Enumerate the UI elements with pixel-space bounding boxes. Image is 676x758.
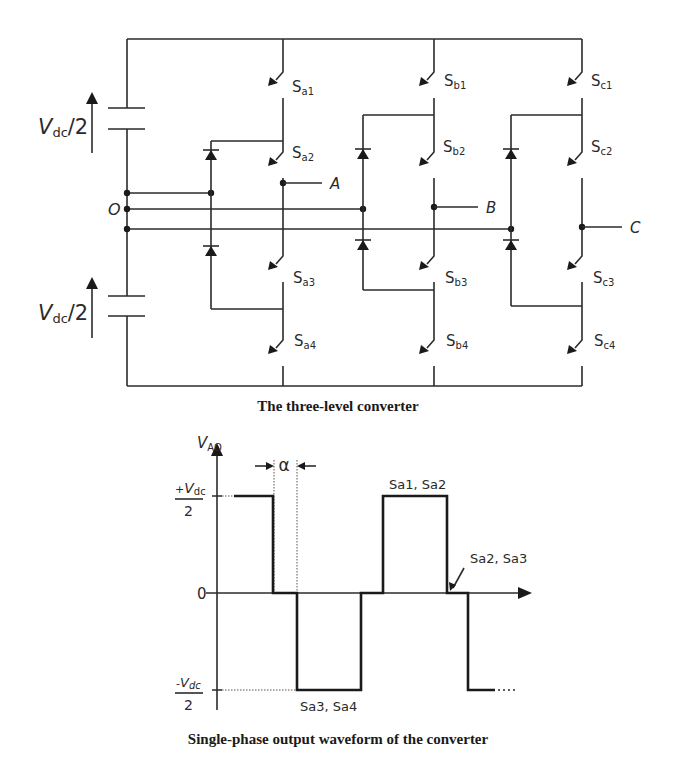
diode-c-upper <box>503 149 519 159</box>
output-b-label: B <box>486 199 496 217</box>
diode-a-upper <box>203 150 219 160</box>
neutral-point-label: O <box>108 200 121 219</box>
switch-label-sb3: Sb3 <box>445 269 467 288</box>
diode-a-lower <box>203 246 219 256</box>
switch-label-sb1: Sb1 <box>444 72 466 91</box>
lower-capacitor <box>108 296 145 316</box>
output-c-label: C <box>630 219 641 237</box>
diode-b-upper <box>355 149 371 159</box>
switch-label-sa2: Sa2 <box>292 144 314 163</box>
zero-state-label: Sa2, Sa3 <box>470 551 527 566</box>
leg-b <box>355 39 478 386</box>
vao-waveform <box>234 496 495 690</box>
diode-b-lower <box>355 240 371 250</box>
switch-label-sa1: Sa1 <box>292 78 314 97</box>
negative-state-label: Sa3, Sa4 <box>300 699 357 714</box>
svg-text:-Vdc: -Vdc <box>176 675 201 691</box>
switch-label-sb4: Sb4 <box>446 332 468 351</box>
diode-c-lower <box>503 240 519 250</box>
switch-label-sb2: Sb2 <box>443 138 465 157</box>
output-waveform-plot: α VAO +Vdc 2 0 -Vdc 2 Sa1, Sa2 Sa2, Sa3 … <box>175 434 532 747</box>
switch-label-sa3: Sa3 <box>293 269 315 288</box>
x-axis-arrow-icon <box>518 587 532 599</box>
lower-source-label: Vdc/2 <box>38 301 88 326</box>
svg-text:2: 2 <box>184 697 193 713</box>
output-a-label: A <box>329 175 340 193</box>
positive-state-label: Sa1, Sa2 <box>389 477 446 492</box>
svg-text:+Vdc: +Vdc <box>175 480 206 497</box>
switch-label-sc1: Sc1 <box>591 72 612 91</box>
upper-source-label: Vdc/2 <box>38 115 88 140</box>
converter-figure: Vdc/2 Vdc/2 O A B C Sa1 Sa2 Sa3 Sa4 Sb1 … <box>0 0 676 758</box>
switch-label-sc2: Sc2 <box>591 138 612 157</box>
three-level-converter-circuit: Vdc/2 Vdc/2 O A B C Sa1 Sa2 Sa3 Sa4 Sb1 … <box>38 39 641 414</box>
converter-caption: The three-level converter <box>257 398 419 414</box>
switch-label-sa4: Sa4 <box>294 332 316 351</box>
upper-capacitor <box>108 108 145 129</box>
alpha-dimension: α <box>255 455 316 475</box>
waveform-caption: Single-phase output waveform of the conv… <box>188 731 489 747</box>
zero-level-label: 0 <box>197 585 207 603</box>
switch-label-sc3: Sc3 <box>593 269 614 288</box>
svg-text:α: α <box>278 455 289 475</box>
svg-text:2: 2 <box>184 503 193 519</box>
positive-level-label: +Vdc 2 <box>175 480 206 519</box>
negative-level-label: -Vdc 2 <box>175 675 203 713</box>
y-axis-label: VAO <box>197 434 222 453</box>
switch-label-sc4: Sc4 <box>594 332 615 351</box>
leg-c <box>503 39 622 386</box>
